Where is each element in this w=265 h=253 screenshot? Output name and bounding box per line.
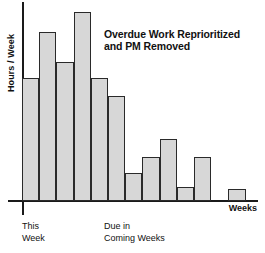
bar-5 <box>91 78 108 201</box>
bar-13 <box>228 189 245 201</box>
bar-10 <box>177 187 194 201</box>
bar-3 <box>56 62 73 201</box>
x-axis-label: Weeks <box>229 203 257 213</box>
bar-4 <box>74 12 91 201</box>
bar-11 <box>194 157 211 201</box>
chart-annotation: Overdue Work Reprioritized and PM Remove… <box>104 28 240 53</box>
bar-chart-figure: Hours / Week Overdue Work Reprioritized … <box>0 0 265 253</box>
bar-9 <box>160 139 177 201</box>
bar-1 <box>22 78 39 201</box>
caption-this-week: This Week <box>22 221 45 244</box>
bar-7 <box>125 173 142 201</box>
y-axis-label: Hours / Week <box>6 28 16 98</box>
bar-6 <box>108 96 125 201</box>
bar-8 <box>142 157 159 201</box>
annotation-line-2: and PM Removed <box>104 40 240 52</box>
bar-2 <box>39 32 56 201</box>
caption-coming-weeks: Due in Coming Weeks <box>104 221 165 244</box>
annotation-line-1: Overdue Work Reprioritized <box>104 28 240 40</box>
